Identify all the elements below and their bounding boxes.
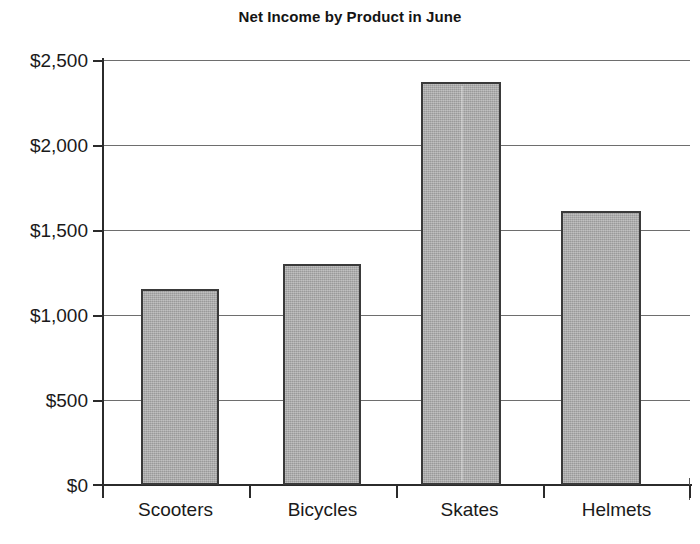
gridline-2500 bbox=[102, 60, 690, 61]
y-axis-label-500: $500 bbox=[0, 391, 88, 410]
bar-scan-seam bbox=[461, 86, 463, 481]
y-axis-label-2500: $2,500 bbox=[0, 51, 88, 70]
gridline-2000 bbox=[102, 145, 690, 146]
x-axis-label-helmets: Helmets bbox=[543, 500, 690, 519]
bar-scooters[interactable] bbox=[141, 289, 219, 485]
x-tick-3 bbox=[543, 485, 545, 498]
x-tick-0 bbox=[102, 485, 104, 498]
bar-bicycles[interactable] bbox=[283, 264, 361, 485]
y-axis-label-0: $0 bbox=[0, 476, 88, 495]
bar-helmets[interactable] bbox=[561, 211, 641, 485]
y-axis-line bbox=[102, 58, 104, 487]
x-tick-1 bbox=[249, 485, 251, 498]
chart-title: Net Income by Product in June bbox=[0, 8, 700, 25]
y-axis-label-1500: $1,500 bbox=[0, 221, 88, 240]
x-tick-4 bbox=[689, 485, 691, 498]
y-axis-label-2000: $2,000 bbox=[0, 136, 88, 155]
y-axis-label-1000: $1,000 bbox=[0, 306, 88, 325]
x-axis-label-skates: Skates bbox=[396, 500, 543, 519]
x-axis-label-scooters: Scooters bbox=[102, 500, 249, 519]
x-axis-label-bicycles: Bicycles bbox=[249, 500, 396, 519]
bar-skates[interactable] bbox=[421, 82, 501, 485]
x-tick-2 bbox=[396, 485, 398, 498]
